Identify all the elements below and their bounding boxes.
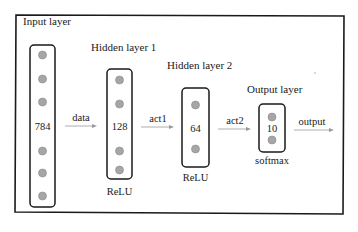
neuron-node [39, 75, 47, 83]
neuron-node [192, 101, 200, 109]
neuron-node [268, 136, 276, 144]
arrowhead-icon [329, 128, 334, 132]
layer-units: 784 [35, 121, 52, 132]
neuron-node [268, 113, 276, 121]
neuron-node [39, 192, 47, 200]
speck [314, 72, 315, 73]
arrowhead-icon [246, 127, 251, 131]
neuron-node [39, 98, 47, 106]
edge-act1: act1 [141, 113, 174, 129]
layer-output: 10 softmax [255, 104, 290, 166]
layer-hidden1: 128 ReLU [107, 69, 133, 197]
layer-hidden2: 64 ReLU [182, 88, 209, 183]
layer-activation: softmax [255, 155, 290, 166]
neuron-node [39, 147, 47, 155]
neuron-node [116, 166, 124, 174]
arrowhead-icon [169, 125, 174, 129]
arrowhead-icon [92, 124, 97, 128]
edge-data: data [65, 112, 97, 128]
neural-network-diagram: Input layer Hidden layer 1 Hidden layer … [0, 0, 358, 232]
neuron-node [39, 169, 47, 177]
edge-label: data [72, 112, 90, 123]
layer-title-output: Output layer [247, 83, 303, 95]
neuron-node [116, 147, 124, 155]
neuron-node [116, 76, 124, 84]
neuron-node [116, 100, 124, 108]
neuron-node [39, 51, 47, 59]
layer-title-hidden1: Hidden layer 1 [91, 41, 156, 53]
frame-title: Input layer [23, 15, 71, 27]
edge-label: act1 [149, 113, 167, 124]
layer-activation: ReLU [183, 172, 209, 183]
layer-activation: ReLU [107, 186, 133, 197]
layer-title-hidden2: Hidden layer 2 [167, 59, 232, 71]
layer-units: 128 [112, 121, 128, 132]
edge-label: act2 [226, 115, 244, 126]
edge-act2: act2 [218, 115, 251, 131]
layer-units: 10 [267, 123, 278, 134]
layer-input: 784 [30, 45, 55, 207]
layer-units: 64 [190, 123, 201, 134]
edge-output: output [294, 116, 334, 132]
neuron-node [192, 145, 200, 153]
edge-label: output [299, 116, 326, 127]
outer-frame [15, 15, 344, 214]
